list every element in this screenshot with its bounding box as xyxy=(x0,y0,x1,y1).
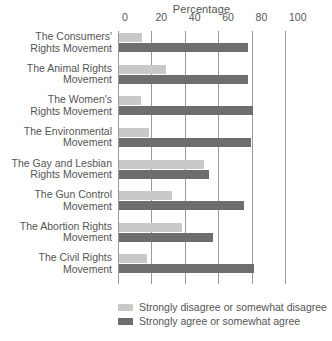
x-axis-tick-label: 40 xyxy=(189,11,201,23)
category-label: The Animal RightsMovement xyxy=(0,63,112,86)
gridline xyxy=(285,31,286,284)
bar-agree xyxy=(119,138,251,147)
legend-item: Strongly agree or somewhat agree xyxy=(118,314,332,328)
category-label: The Consumers'Rights Movement xyxy=(0,31,112,54)
bar-agree xyxy=(119,201,244,210)
x-axis-tick-label: 80 xyxy=(256,11,268,23)
chart-category-row: The Animal RightsMovement xyxy=(118,63,285,95)
bar-agree xyxy=(119,170,209,179)
x-axis-tick-label: 20 xyxy=(155,11,167,23)
plot-area: 020406080100The Consumers'Rights Movemen… xyxy=(118,31,285,284)
bar-agree xyxy=(119,233,213,242)
category-label: The EnvironmentalMovement xyxy=(0,126,112,149)
bar-disagree xyxy=(119,65,166,74)
bar-disagree xyxy=(119,160,204,169)
category-label: The Gun ControlMovement xyxy=(0,189,112,212)
bar-chart: Percentage 020406080100The Consumers'Rig… xyxy=(0,0,332,341)
chart-category-row: The EnvironmentalMovement xyxy=(118,126,285,158)
bar-agree xyxy=(119,106,253,115)
bar-disagree xyxy=(119,191,172,200)
chart-category-row: The Gun ControlMovement xyxy=(118,189,285,221)
legend-swatch xyxy=(118,318,133,325)
legend-label: Strongly disagree or somewhat disagree xyxy=(139,301,327,313)
bar-agree xyxy=(119,264,254,273)
legend-item: Strongly disagree or somewhat disagree xyxy=(118,300,332,314)
chart-category-row: The Abortion RightsMovement xyxy=(118,221,285,253)
bar-agree xyxy=(119,43,248,52)
category-label: The Civil RightsMovement xyxy=(0,252,112,275)
x-axis-tick-label: 60 xyxy=(222,11,234,23)
bar-disagree xyxy=(119,254,147,263)
legend-swatch xyxy=(118,304,133,311)
bar-agree xyxy=(119,75,248,84)
x-axis-tick-label: 100 xyxy=(289,11,307,23)
bar-disagree xyxy=(119,128,149,137)
bar-disagree xyxy=(119,96,141,105)
bar-disagree xyxy=(119,223,182,232)
chart-category-row: The Consumers'Rights Movement xyxy=(118,31,285,63)
x-axis-tick-label: 0 xyxy=(122,11,128,23)
chart-category-row: The Civil RightsMovement xyxy=(118,252,285,284)
legend-label: Strongly agree or somewhat agree xyxy=(139,315,300,327)
chart-category-row: The Women'sRights Movement xyxy=(118,94,285,126)
chart-legend: Strongly disagree or somewhat disagreeSt… xyxy=(118,300,332,328)
category-label: The Abortion RightsMovement xyxy=(0,221,112,244)
bar-disagree xyxy=(119,33,142,42)
category-label: The Women'sRights Movement xyxy=(0,94,112,117)
chart-category-row: The Gay and LesbianRights Movement xyxy=(118,158,285,190)
category-label: The Gay and LesbianRights Movement xyxy=(0,158,112,181)
